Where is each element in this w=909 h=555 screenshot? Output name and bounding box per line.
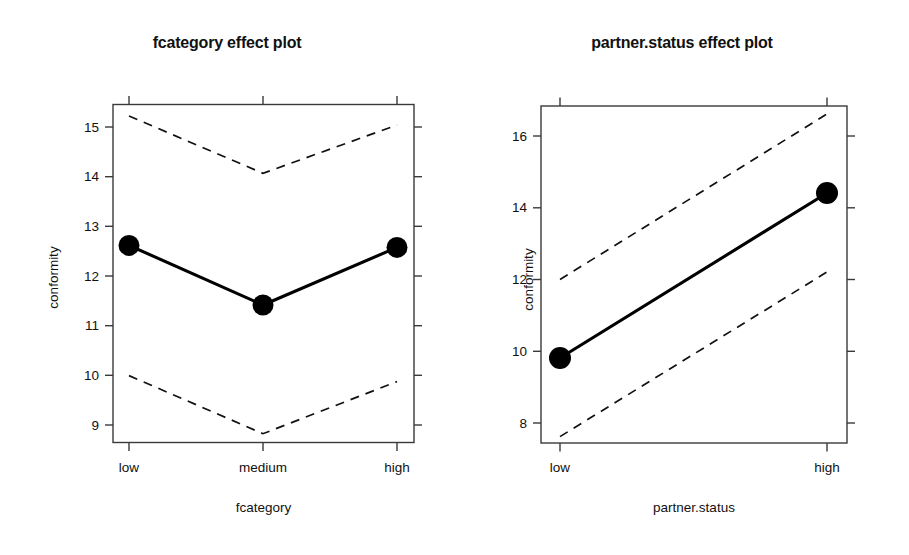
upper-confidence-band-right [560,114,827,280]
y-axis-ticks-right [533,136,855,423]
effect-plots-figure: fcategory effect plot conformity fcatego… [0,0,909,555]
x-tick-label: low [119,460,140,475]
data-point [816,182,838,204]
x-tick-label: low [550,460,571,475]
x-tick-label: high [814,460,840,475]
y-tick-label: 8 [519,416,527,431]
upper-confidence-band-left [129,116,397,173]
panel-right-plot-area: 16 14 12 10 8 low high [455,0,909,555]
panel-left-plot-area: 15 14 13 12 11 10 9 low medium high [0,0,454,555]
data-point [253,295,274,316]
y-tick-label: 10 [512,344,527,359]
lower-confidence-band-left [129,376,397,434]
y-tick-label: 16 [512,129,527,144]
panel-fcategory: fcategory effect plot conformity fcatego… [0,0,454,555]
x-tick-label: medium [239,460,287,475]
y-tick-label: 14 [84,169,100,184]
y-tick-label: 10 [84,368,99,383]
data-point [387,237,408,258]
y-tick-label: 9 [91,418,99,433]
panel-partner-status: partner.status effect plot conformity pa… [455,0,909,555]
y-tick-label: 12 [512,272,527,287]
y-tick-label: 13 [84,219,99,234]
fit-line-right [560,193,827,358]
data-point [549,347,571,369]
y-axis-ticks-left [105,127,422,425]
x-tick-label: high [384,460,410,475]
y-tick-label: 11 [85,318,99,333]
lower-confidence-band-right [560,272,827,437]
y-tick-label: 15 [84,120,99,135]
data-point [119,235,140,256]
y-tick-label: 14 [512,200,528,215]
y-tick-label: 12 [84,269,99,284]
